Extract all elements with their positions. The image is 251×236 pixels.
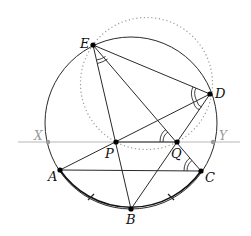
point-d bbox=[207, 91, 212, 96]
segment-eb bbox=[93, 45, 131, 209]
point-e bbox=[90, 42, 95, 47]
auxiliary-circle bbox=[81, 18, 213, 150]
point-b bbox=[128, 206, 133, 211]
label-p: P bbox=[104, 146, 114, 161]
label-y: Y bbox=[219, 129, 228, 143]
angle-mark-c bbox=[187, 161, 192, 172]
angle-mark-q bbox=[163, 132, 168, 142]
point-c bbox=[198, 168, 203, 173]
label-b: B bbox=[125, 212, 136, 227]
label-c: C bbox=[205, 170, 215, 185]
label-e: E bbox=[79, 36, 90, 51]
angle-mark-d-lower bbox=[197, 101, 202, 108]
segment-ed bbox=[93, 45, 210, 94]
geometry-diagram: E D P Q A C B X Y bbox=[0, 0, 251, 236]
segment-ac bbox=[60, 170, 201, 171]
angle-mark-d-upper bbox=[195, 88, 197, 101]
arc-abc bbox=[60, 170, 201, 207]
point-y bbox=[211, 140, 215, 144]
label-d: D bbox=[214, 86, 226, 101]
label-q: Q bbox=[171, 146, 182, 161]
label-a: A bbox=[47, 169, 57, 184]
segment-da bbox=[60, 94, 210, 170]
point-a bbox=[57, 167, 62, 172]
point-x bbox=[46, 140, 50, 144]
point-p bbox=[113, 139, 118, 144]
angle-mark-d-upper-2 bbox=[191, 87, 193, 102]
point-q bbox=[174, 139, 179, 144]
label-x: X bbox=[33, 129, 43, 143]
